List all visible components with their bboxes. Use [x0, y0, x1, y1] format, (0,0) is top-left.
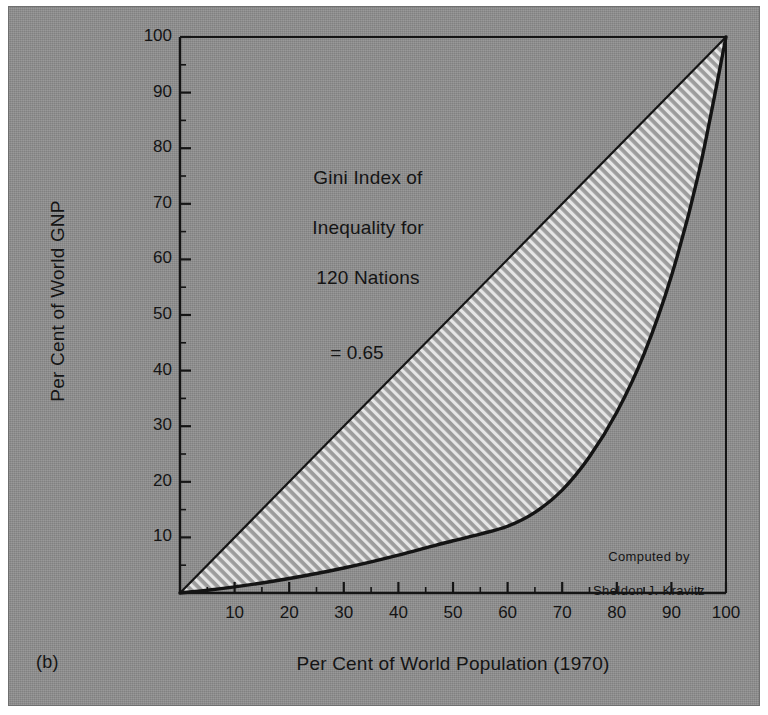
y-tick-label: 10 [128, 526, 172, 546]
credit-line-1: Computed by [608, 549, 690, 564]
y-tick-label: 100 [128, 26, 172, 46]
gini-annotation: Gini Index of Inequality for 120 Nations… [252, 140, 462, 415]
x-tick-label: 70 [540, 603, 584, 623]
x-axis-title: Per Cent of World Population (1970) [180, 653, 726, 675]
y-tick-label: 90 [128, 82, 172, 102]
gini-line-1: Gini Index of [313, 167, 422, 188]
credit-annotation: Computed by Sheldon J. Kravitz [566, 531, 716, 616]
panel-label: (b) [36, 652, 59, 673]
y-tick-label: 50 [128, 304, 172, 324]
x-tick-label: 50 [431, 603, 475, 623]
x-tick-label: 10 [213, 603, 257, 623]
x-tick-label: 40 [376, 603, 420, 623]
x-tick-label: 20 [267, 603, 311, 623]
credit-line-2: Sheldon J. Kravitz [593, 583, 705, 598]
x-tick-label: 80 [595, 603, 639, 623]
y-tick-label: 60 [128, 248, 172, 268]
x-tick-label: 60 [486, 603, 530, 623]
y-tick-label: 70 [128, 193, 172, 213]
y-tick-label: 40 [128, 360, 172, 380]
x-tick-label: 30 [322, 603, 366, 623]
y-axis-title: Per Cent of World GNP [47, 181, 69, 421]
y-tick-label: 80 [128, 137, 172, 157]
y-tick-label: 30 [128, 415, 172, 435]
x-tick-label: 90 [649, 603, 693, 623]
x-tick-label: 100 [704, 603, 748, 623]
gini-line-2: Inequality for [312, 217, 424, 238]
gini-line-3: 120 Nations [316, 267, 420, 288]
lorenz-curve-figure: Per Cent of World GNP Per Cent of World … [0, 0, 768, 715]
gini-value: = 0.65 [252, 340, 462, 365]
y-tick-label: 20 [128, 471, 172, 491]
